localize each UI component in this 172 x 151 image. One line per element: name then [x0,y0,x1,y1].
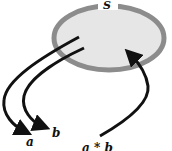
binary-operation-diagram: S a b a * b [0,0,172,151]
set-label: S [103,0,111,12]
element-b-label: b [52,126,60,140]
product-label: a * b [82,141,113,151]
element-a-label: a [26,135,34,149]
